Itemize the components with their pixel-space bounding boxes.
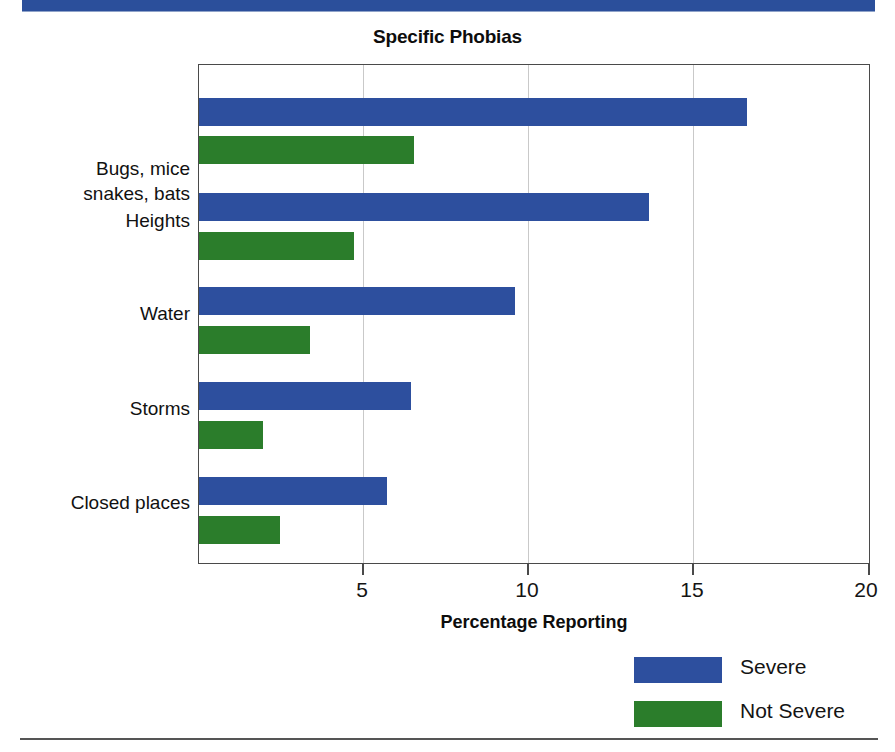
bar-not-severe-bugs [199, 136, 414, 164]
tick-mark-15 [692, 564, 694, 575]
plot-area [198, 64, 870, 564]
bar-not-severe-storms [199, 421, 263, 449]
tick-mark-10 [527, 564, 529, 575]
category-label-line1: Bugs, mice [8, 156, 190, 181]
legend-label-severe: Severe [740, 655, 807, 679]
chart-legend: Severe Not Severe [634, 655, 894, 731]
bar-not-severe-water [199, 326, 310, 354]
bar-not-severe-heights [199, 232, 354, 260]
category-label-closed-places: Closed places [8, 490, 198, 515]
tick-label-5: 5 [332, 578, 392, 602]
category-label-line1: Heights [8, 208, 190, 233]
tick-label-15: 15 [662, 578, 722, 602]
category-axis-labels: Bugs, mice snakes, bats Heights Water St… [0, 64, 198, 564]
top-banner [22, 0, 875, 12]
category-label-heights: Heights [8, 208, 198, 233]
tick-label-20: 20 [836, 578, 895, 602]
category-label-line2: snakes, bats [8, 181, 190, 206]
category-label-line1: Storms [8, 396, 190, 421]
bottom-rule [20, 738, 878, 740]
category-label-line1: Water [8, 301, 190, 326]
gridline-15 [693, 65, 694, 563]
bar-not-severe-closed [199, 516, 280, 544]
category-label-line1: Closed places [8, 490, 190, 515]
legend-label-not-severe: Not Severe [740, 699, 845, 723]
gridline-10 [528, 65, 529, 563]
category-label-water: Water [8, 301, 198, 326]
tick-label-10: 10 [497, 578, 557, 602]
x-axis-title: Percentage Reporting [198, 612, 870, 633]
tick-mark-5 [362, 564, 364, 575]
bar-severe-heights [199, 193, 649, 221]
legend-swatch-not-severe [634, 701, 722, 727]
tick-mark-20 [868, 564, 870, 575]
bar-severe-closed [199, 477, 387, 505]
bar-severe-storms [199, 382, 411, 410]
chart-title: Specific Phobias [0, 26, 895, 48]
legend-swatch-severe [634, 657, 722, 683]
category-label-storms: Storms [8, 396, 198, 421]
bar-severe-water [199, 287, 515, 315]
bar-severe-bugs [199, 98, 747, 126]
category-label-bugs: Bugs, mice snakes, bats [8, 156, 198, 206]
